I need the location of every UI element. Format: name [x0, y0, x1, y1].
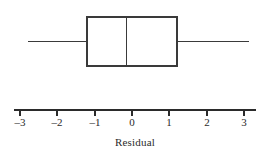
axis-tick-label--2: –2	[52, 117, 63, 128]
axis-tick-label-1: 1	[166, 117, 172, 128]
axis-tick-label-0: 0	[129, 117, 135, 128]
boxplot-figure: –3 –2 –1 0 1 2 3 Residual	[0, 0, 270, 155]
axis-tick-label--1: –1	[90, 117, 101, 128]
axis-tick-label-2: 2	[204, 117, 210, 128]
axis-title: Residual	[0, 136, 270, 148]
axis-tick-label-3: 3	[241, 117, 247, 128]
boxplot-plot-area	[0, 0, 270, 100]
axis-tick-label--3: –3	[15, 117, 26, 128]
boxplot-graphic	[0, 0, 270, 100]
interquartile-box	[87, 17, 177, 66]
